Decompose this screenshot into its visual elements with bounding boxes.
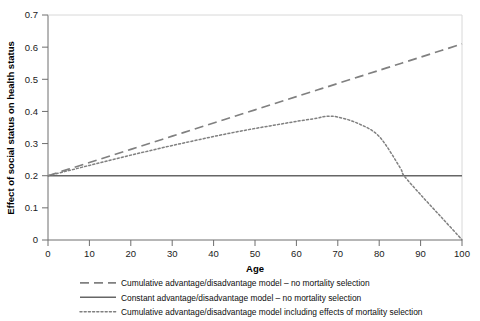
y-tick-label: 0.4: [25, 106, 38, 117]
chart-legend: Cumulative advantage/disadvantage model …: [80, 278, 423, 317]
y-tick-label: 0.7: [25, 9, 38, 20]
legend-item-label: Constant advantage/disadvantage model – …: [121, 293, 362, 303]
y-tick-label: 0.6: [25, 42, 38, 53]
x-tick-label: 0: [45, 248, 50, 259]
x-tick-label: 50: [250, 248, 261, 259]
series-line-3: [48, 116, 462, 239]
x-tick-label: 20: [126, 248, 137, 259]
x-axis-ticks: 0102030405060708090100: [45, 240, 470, 259]
x-tick-label: 10: [84, 248, 95, 259]
x-axis-title: Age: [246, 263, 264, 274]
plot-frame: [48, 15, 462, 240]
x-tick-label: 100: [454, 248, 470, 259]
line-chart: 00.10.20.30.40.50.60.7 01020304050607080…: [0, 0, 480, 321]
x-tick-label: 60: [291, 248, 302, 259]
chart-container: 00.10.20.30.40.50.60.7 01020304050607080…: [0, 0, 480, 321]
x-tick-label: 90: [415, 248, 426, 259]
x-tick-label: 80: [374, 248, 385, 259]
y-tick-label: 0.3: [25, 138, 38, 149]
x-tick-label: 30: [167, 248, 178, 259]
x-tick-label: 70: [333, 248, 344, 259]
y-tick-label: 0.2: [25, 170, 38, 181]
y-axis-title: Effect of social status on health status: [5, 41, 16, 215]
legend-item-label: Cumulative advantage/disadvantage model …: [121, 278, 370, 288]
y-tick-label: 0: [33, 234, 38, 245]
x-tick-label: 40: [208, 248, 219, 259]
series-line-1: [48, 44, 462, 176]
y-axis-ticks: 00.10.20.30.40.50.60.7: [25, 9, 48, 245]
legend-item-label: Cumulative advantage/disadvantage model …: [121, 307, 423, 317]
y-tick-label: 0.5: [25, 74, 38, 85]
data-series-group: [48, 44, 462, 240]
y-tick-label: 0.1: [25, 202, 38, 213]
